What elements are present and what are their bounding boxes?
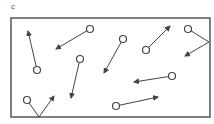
particle [104,36,127,74]
velocity-arrow [104,42,121,73]
velocity-arrow [28,31,36,67]
particle [71,56,84,99]
velocity-arrow [56,31,87,49]
container-box [11,18,210,117]
particle [134,73,176,83]
velocity-arrow [134,77,169,82]
particles-group [24,26,210,118]
particle-circle [169,73,176,80]
particle-circle [77,56,84,63]
particle-circle [24,97,31,104]
velocity-arrow [148,26,170,48]
particle-circle [185,26,192,33]
particle-circle [87,26,94,33]
particle [24,96,55,117]
gas-particles-diagram [0,0,214,124]
particle [28,31,41,74]
velocity-arrow [119,97,158,105]
particle [185,26,210,57]
particle-circle [120,36,127,43]
particle [143,26,171,54]
particle-circle [34,67,41,74]
particle-circle [143,47,150,54]
velocity-arrow [71,62,79,98]
particle-circle [113,103,120,110]
particle [113,97,159,110]
velocity-arrow [29,96,54,117]
particle [56,26,94,50]
velocity-arrow [185,31,209,56]
